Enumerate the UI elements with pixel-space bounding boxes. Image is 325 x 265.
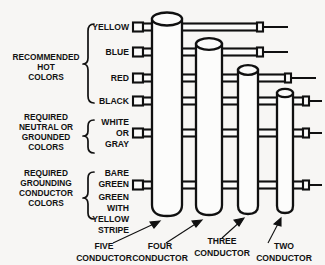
category-grounding-line1: REQUIRED	[24, 168, 68, 178]
cable-top-five	[152, 13, 182, 26]
brace-neutral	[83, 120, 94, 153]
leader-three	[222, 218, 244, 238]
row-label-gray: GRAY	[105, 139, 129, 149]
row-label-stripe: STRIPE	[98, 225, 129, 235]
cable-top-two	[277, 89, 293, 97]
cable-body-four	[196, 44, 222, 215]
category-neutral-line1: REQUIRED	[24, 112, 68, 122]
row-label-with: WITH	[107, 203, 129, 213]
left-stub-blue	[133, 48, 143, 57]
cable-body-five	[152, 19, 182, 216]
cable-label-four-line2: CONDUCTOR	[132, 253, 188, 263]
category-neutral-line4: COLORS	[28, 142, 64, 152]
left-stub-black	[133, 97, 143, 106]
row-label-green2: GREEN	[98, 192, 129, 202]
category-hot-line2: HOT	[37, 62, 55, 72]
row-label-red: RED	[111, 73, 129, 83]
brace-hot	[83, 24, 94, 103]
category-grounding-line3: CONDUCTOR	[19, 188, 73, 198]
cable-label-five-line1: FIVE	[94, 241, 113, 251]
cable-four-conductor	[196, 38, 222, 215]
wiring-color-code-diagram: RECOMMENDED HOT COLORS REQUIRED NEUTRAL …	[0, 0, 325, 265]
cable-body-three	[238, 70, 258, 214]
row-label-blue: BLUE	[106, 47, 130, 57]
cable-label-three-line1: THREE	[207, 236, 236, 246]
brace-grounding	[83, 172, 94, 219]
category-hot-line1: RECOMMENDED	[13, 52, 80, 62]
row-label-white: WHITE	[101, 117, 129, 127]
cable-label-five-line2: CONDUCTOR	[76, 253, 132, 263]
row-label-yellow: YELLOW	[92, 22, 130, 32]
row-label-bare: BARE	[105, 168, 130, 178]
cable-label-two-line2: CONDUCTOR	[256, 253, 312, 263]
diagram-canvas: RECOMMENDED HOT COLORS REQUIRED NEUTRAL …	[0, 0, 325, 265]
cable-label-four-line1: FOUR	[148, 241, 173, 251]
cable-body-two	[277, 93, 293, 213]
row-label-or: OR	[116, 128, 130, 138]
category-grounding-line4: COLORS	[28, 198, 64, 208]
leader-two	[268, 218, 281, 243]
category-hot-line3: COLORS	[28, 72, 64, 82]
left-stub-yellow	[133, 23, 143, 32]
category-grounding-line2: GROUNDING	[20, 178, 72, 188]
leader-four	[166, 220, 202, 243]
left-stub-white	[133, 129, 143, 138]
cable-top-three	[238, 65, 258, 75]
row-label-black: BLACK	[99, 96, 130, 106]
cable-two-conductor	[277, 89, 293, 213]
left-stub-ground	[133, 181, 143, 190]
row-label-green1: GREEN	[98, 179, 129, 189]
row-label-yellow-stripe: YELLOW	[92, 214, 130, 224]
category-neutral-line2: NEUTRAL OR	[19, 122, 73, 132]
cable-five-conductor	[152, 13, 182, 217]
cable-label-two-line1: TWO	[274, 241, 294, 251]
left-stub-red	[133, 74, 143, 83]
cable-top-four	[196, 38, 222, 50]
cable-three-conductor	[238, 65, 258, 214]
cable-label-three-line2: CONDUCTOR	[194, 248, 250, 258]
category-neutral-line3: GROUNDED	[22, 132, 70, 142]
